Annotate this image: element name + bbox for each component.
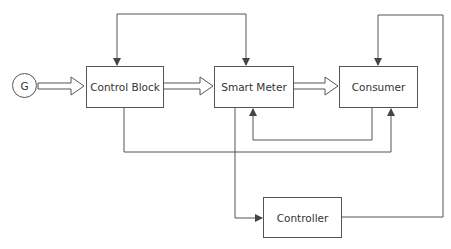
consumer-smartmeter-line <box>253 107 372 140</box>
control-block-node: Control Block <box>86 66 164 108</box>
control-block-label: Control Block <box>90 81 160 93</box>
arrow-smartmeter-consumer <box>293 77 338 95</box>
diagram-connectors <box>0 0 451 249</box>
arrow-controlblock-smartmeter <box>163 77 213 95</box>
arrow-g-controlblock <box>38 77 84 95</box>
smart-meter-label: Smart Meter <box>221 81 287 93</box>
consumer-node: Consumer <box>339 66 418 108</box>
controller-label: Controller <box>277 212 329 224</box>
generator-label: G <box>20 80 28 92</box>
smart-meter-node: Smart Meter <box>214 66 294 108</box>
consumer-label: Consumer <box>352 81 406 93</box>
generator-node: G <box>12 73 37 98</box>
controller-consumer-line <box>341 15 443 217</box>
controller-node: Controller <box>263 197 342 238</box>
controlblock-consumer-line <box>124 107 391 152</box>
smartmeter-controller-line <box>235 107 262 218</box>
